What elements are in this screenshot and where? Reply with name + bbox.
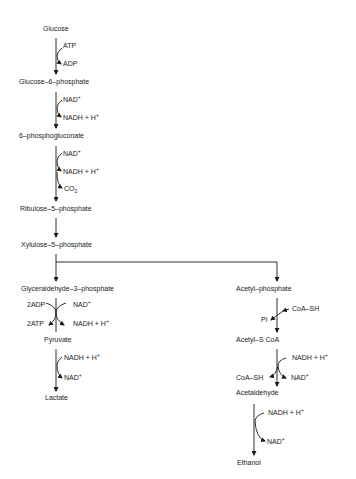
cofactor-nad-1: NAD+ [63, 96, 81, 104]
arrow-nad-out-4 [57, 365, 62, 378]
cofactor-co2: CO2 [64, 185, 77, 193]
arrow-atp-in [57, 48, 62, 56]
arrow-xu5p-acetylp [56, 262, 277, 281]
cofactor-coash-out: CoA–SH [236, 374, 263, 382]
cofactor-atp: ATP [63, 42, 76, 50]
arrow-2atp-out [49, 313, 56, 325]
arrow-nad-out-5 [278, 366, 286, 378]
cofactor-nadh-5: NADH + H+ [292, 354, 328, 362]
cofactor-nad-3: NAD+ [73, 301, 91, 309]
cofactor-2atp: 2ATP [27, 320, 44, 328]
metabolite-acetaldehyde: Acetaldehyde [236, 389, 278, 397]
cofactor-pi: Pi [261, 316, 267, 324]
cofactor-nadh-1: NADH + H+ [63, 114, 99, 122]
arrow-nadh-out-2 [57, 161, 61, 171]
arrow-nadh-in-4 [57, 357, 62, 365]
cofactor-nadh-6: NADH + H+ [268, 409, 304, 417]
arrow-nad-in-1 [57, 100, 62, 108]
cofactor-nadh-2: NADH + H+ [63, 168, 99, 176]
metabolite-ethanol: Ethanol [237, 459, 261, 467]
arrow-nad-in-2 [57, 153, 62, 161]
arrow-nadh-in-5 [278, 358, 286, 366]
metabolite-acetyl-phosphate: Acetyl–phosphate [236, 285, 292, 293]
arrow-coash-in [283, 309, 289, 311]
metabolite-acetyl-coa: Acetyl–S CoA [236, 336, 279, 344]
metabolite-ribulose-5-phosphate: Ribulose–5–phosphate [20, 205, 92, 213]
arrow-co2-out [57, 172, 62, 188]
cofactor-nadh-3: NADH + H+ [73, 320, 109, 328]
metabolite-lactate: Lactate [45, 394, 68, 402]
metabolite-glucose-6-phosphate: Glucose–6–phosphate [19, 78, 89, 86]
metabolite-glucose: Glucose [43, 25, 69, 33]
cofactor-2adp: 2ADP [27, 301, 45, 309]
cofactor-coash-in: CoA–SH [292, 305, 319, 313]
cofactor-adp: ADP [63, 60, 77, 68]
metabolite-6-phosphogluconate: 6–phosphogluconate [19, 132, 84, 140]
arrow-nadh-out-1 [57, 108, 61, 117]
cofactor-nadh-4: NADH + H+ [64, 354, 100, 362]
arrow-nad-in-3 [56, 303, 66, 313]
cofactor-nad-6: NAD+ [267, 438, 285, 446]
metabolite-xylulose-5-phosphate: Xylulose–5–phosphate [21, 241, 92, 249]
metabolite-pyruvate: Pyruvate [44, 336, 72, 344]
arrow-nadh-in-6 [255, 413, 264, 421]
cofactor-nad-5: NAD+ [291, 374, 309, 382]
metabolite-glyceraldehyde-3-phosphate: Glyceraldehyde–3–phosphate [21, 285, 114, 293]
arrow-adp-out [57, 56, 61, 64]
arrow-2adp-in [46, 303, 56, 313]
arrow-nad-out-6 [255, 421, 265, 441]
cofactor-nad-4: NAD+ [64, 374, 82, 382]
arrow-nadh-out-3 [56, 313, 64, 325]
cofactor-nad-2: NAD+ [63, 150, 81, 158]
